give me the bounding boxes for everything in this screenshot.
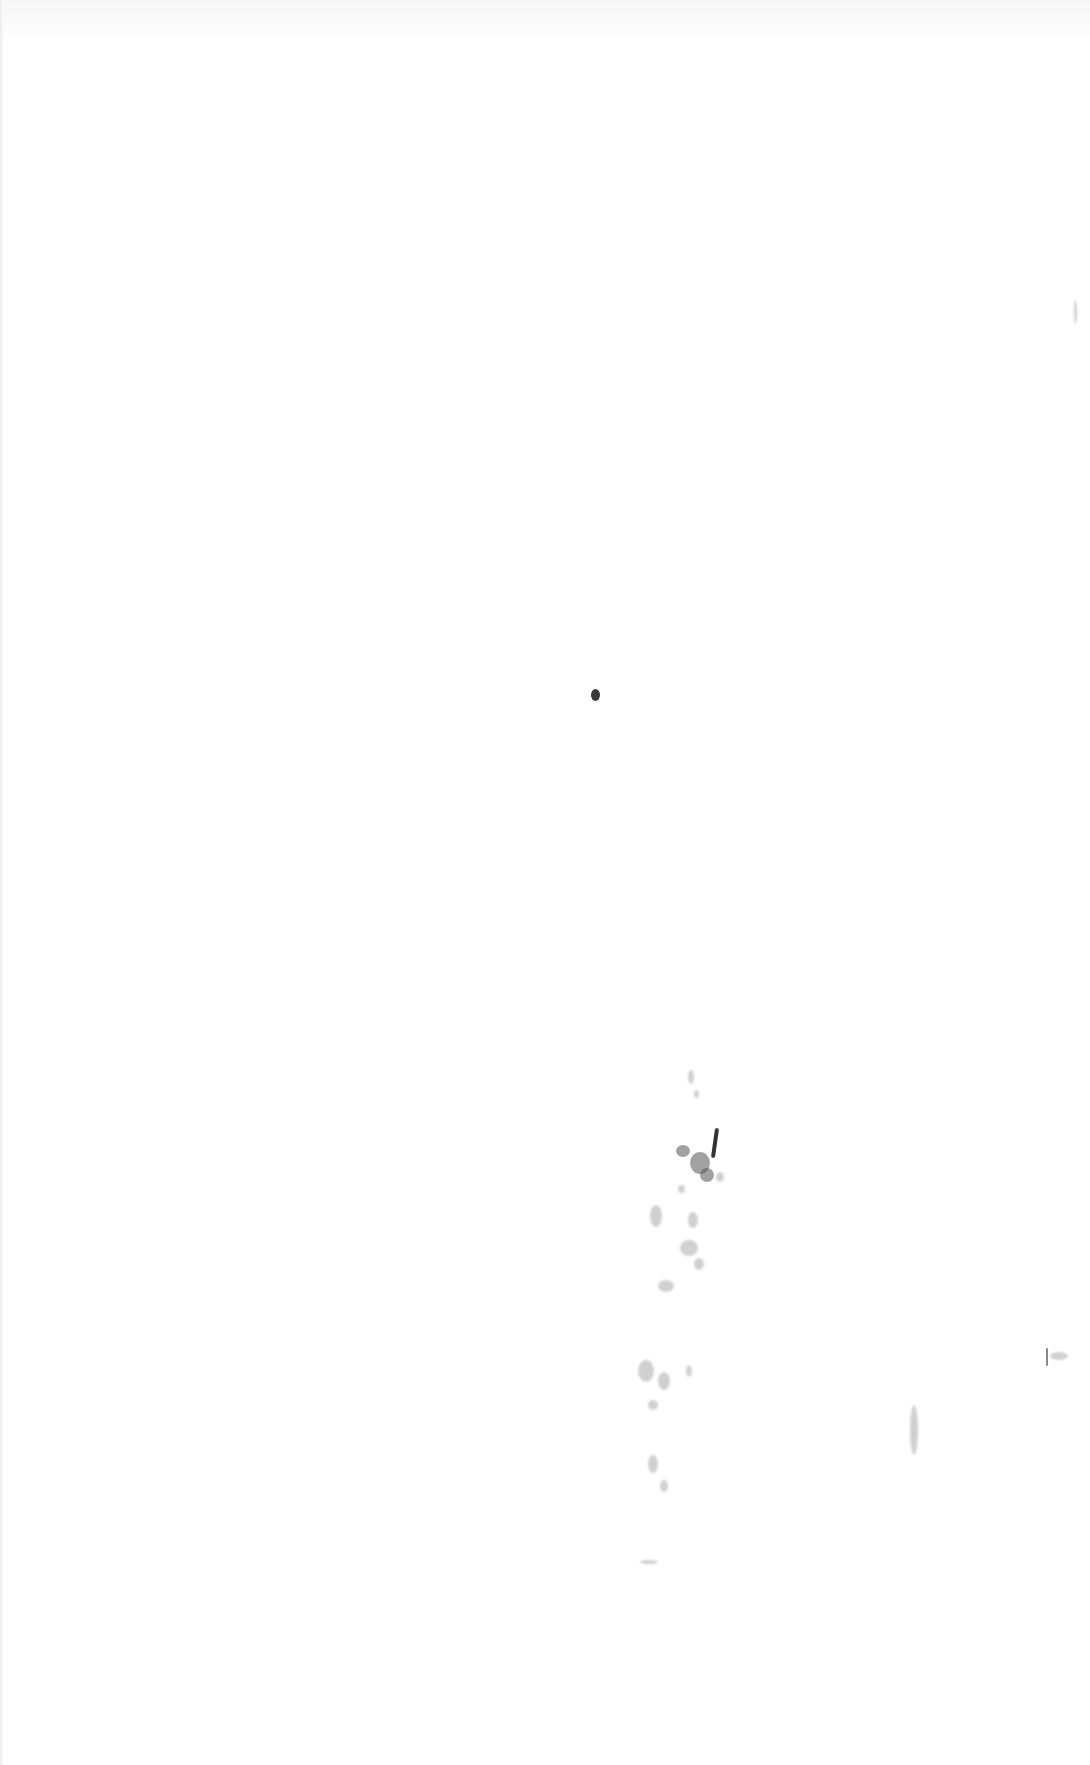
ink-dot [591, 689, 600, 701]
page-edge-shadow [0, 0, 4, 1765]
scanned-page [0, 0, 1090, 1765]
